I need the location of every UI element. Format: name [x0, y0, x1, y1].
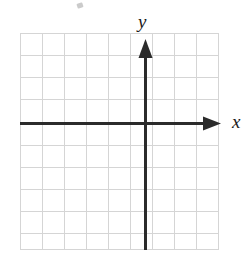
- coordinate-plane-svg: [0, 0, 249, 263]
- grid-lines-vertical: [21, 33, 219, 250]
- grid-lines-horizontal: [20, 34, 218, 250]
- coordinate-grid-figure: y x: [0, 0, 249, 263]
- x-axis: [20, 117, 221, 131]
- y-axis: [139, 39, 153, 250]
- y-axis-arrowhead: [139, 39, 153, 58]
- y-axis-label: y: [138, 12, 146, 31]
- x-axis-label: x: [232, 112, 240, 131]
